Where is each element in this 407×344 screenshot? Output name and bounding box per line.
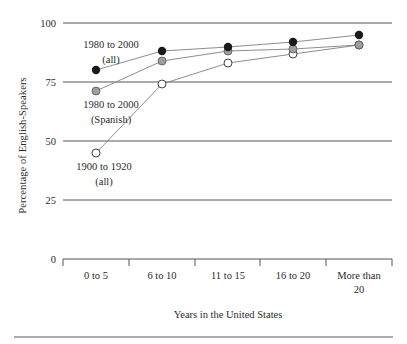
x-axis-title: Years in the United States bbox=[174, 309, 283, 320]
annotation-1980-to-2000-all: 1980 to 2000 (all) bbox=[83, 39, 138, 66]
data-point bbox=[92, 149, 100, 157]
y-tick-label-100: 100 bbox=[40, 18, 56, 29]
chart-figure: Percentage of English-Speakers 100 75 50… bbox=[0, 0, 407, 344]
x-category-label-3: 16 to 20 bbox=[276, 270, 310, 281]
x-category-label-2: 11 to 15 bbox=[211, 270, 245, 281]
x-category-label-4-line1: More than bbox=[337, 270, 381, 281]
data-point bbox=[289, 45, 297, 53]
annotation-line-2: (Spanish) bbox=[91, 114, 132, 126]
annotation-1900-to-1920-all: 1900 to 1920 (all) bbox=[76, 161, 131, 188]
annotation-line-2: (all) bbox=[95, 176, 113, 188]
y-tick-label-50: 50 bbox=[46, 136, 57, 147]
data-point bbox=[224, 59, 232, 67]
data-point bbox=[92, 87, 100, 95]
data-point bbox=[355, 31, 363, 39]
data-point bbox=[158, 80, 166, 88]
data-point bbox=[92, 66, 100, 74]
annotation-line-1: 1980 to 2000 bbox=[83, 39, 138, 50]
annotation-1980-to-2000-spanish: 1980 to 2000 (Spanish) bbox=[83, 99, 138, 126]
annotation-line-1: 1980 to 2000 bbox=[83, 99, 138, 110]
annotation-line-1: 1900 to 1920 bbox=[76, 161, 131, 172]
data-point bbox=[355, 41, 363, 49]
x-category-label-4-line2: 20 bbox=[354, 284, 365, 295]
data-point bbox=[158, 57, 166, 65]
data-point bbox=[224, 43, 232, 51]
data-point bbox=[289, 38, 297, 46]
y-tick-label-0: 0 bbox=[51, 254, 56, 265]
x-axis-ticks bbox=[63, 259, 392, 266]
y-tick-label-25: 25 bbox=[46, 195, 57, 206]
x-axis-category-labels: 0 to 5 6 to 10 11 to 15 16 to 20 More th… bbox=[84, 270, 381, 295]
annotation-line-2: (all) bbox=[102, 54, 120, 66]
y-axis-tick-labels: 100 75 50 25 0 bbox=[40, 18, 56, 265]
x-category-label-0: 0 to 5 bbox=[84, 270, 108, 281]
x-category-label-1: 6 to 10 bbox=[147, 270, 176, 281]
data-point bbox=[158, 47, 166, 55]
line-chart-plot: 100 75 50 25 0 0 to 5 6 to 10 11 to 15 1… bbox=[0, 0, 407, 344]
y-tick-label-75: 75 bbox=[46, 77, 57, 88]
